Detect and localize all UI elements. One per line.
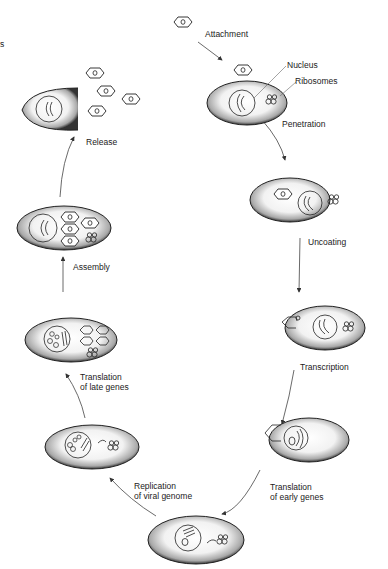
virion-free — [174, 17, 192, 27]
label-assembly: Assembly — [73, 262, 110, 272]
label-transcription: Transcription — [300, 362, 349, 372]
cell-replication — [45, 425, 139, 469]
cell-late-translation — [25, 318, 117, 362]
cell-attachment — [207, 65, 296, 125]
label-attachment: Attachment — [205, 29, 248, 39]
cell-assembly — [17, 206, 111, 250]
cell-release — [22, 68, 140, 130]
cell-uncoating — [282, 306, 365, 350]
cell-bottom — [148, 516, 244, 564]
label-penetration: Penetration — [282, 119, 325, 129]
label-ribosomes: Ribosomes — [295, 76, 338, 86]
edge-label: s — [0, 39, 4, 49]
viral-cycle-diagram: s Attachment Nucleus Ribosomes Penetrati… — [0, 0, 388, 569]
cell-transcription — [265, 418, 349, 462]
label-release: Release — [86, 137, 117, 147]
label-translation-late: Translation of late genes — [80, 372, 129, 392]
label-translation-early: Translation of early genes — [270, 482, 323, 502]
cell-penetration — [250, 178, 339, 222]
label-replication: Replication of viral genome — [134, 481, 192, 501]
label-nucleus: Nucleus — [287, 60, 318, 70]
label-uncoating: Uncoating — [308, 237, 346, 247]
